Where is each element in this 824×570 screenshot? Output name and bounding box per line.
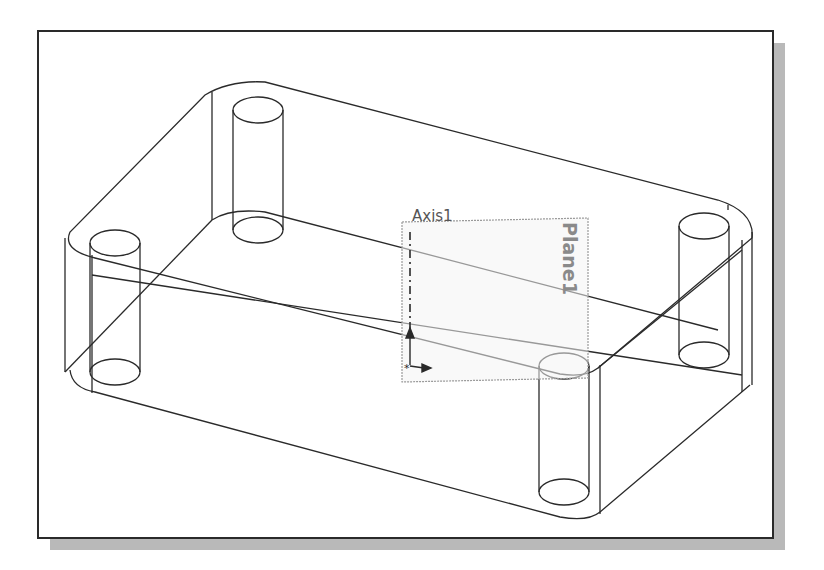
inner-diagonal-left [65, 220, 212, 372]
boss-right [679, 213, 729, 368]
plane-label[interactable]: Plane1 [559, 222, 581, 295]
wireframe-model[interactable]: Plane1 Axis1 * [0, 0, 824, 570]
reference-plane[interactable]: Plane1 [402, 218, 588, 382]
boss-back-left [233, 97, 283, 243]
inner-edge-front-diagonal [598, 250, 742, 368]
boss-left [90, 230, 140, 385]
bottom-face-edge [70, 370, 750, 519]
axis-label[interactable]: Axis1 [412, 207, 453, 225]
svg-text:*: * [404, 362, 410, 375]
